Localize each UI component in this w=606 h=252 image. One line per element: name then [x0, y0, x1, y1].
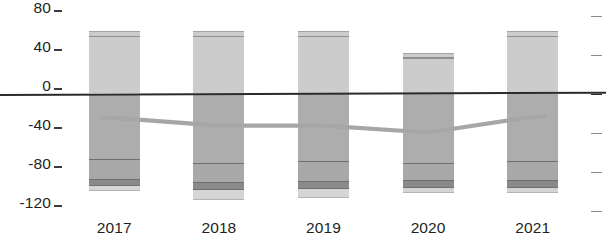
bar-segment-positive-outline — [507, 31, 558, 32]
bar-segment-negative-mid — [298, 162, 349, 182]
bar-segment-bottom-outline — [89, 190, 140, 191]
bar-segment-bottom-outline — [298, 197, 349, 198]
bar-segment-positive-outline — [193, 31, 244, 32]
x-axis-label-2019: 2019 — [284, 220, 364, 236]
y-axis-tick-dash — [54, 166, 62, 168]
bar-segment-positive — [403, 58, 454, 93]
y-axis-tick-label: -80 — [28, 156, 51, 172]
y-axis-tick-label: 80 — [34, 0, 51, 15]
bar-column — [403, 0, 454, 252]
bar-segment-positive-cap-line — [403, 57, 454, 59]
bar-segment-negative-upper — [507, 94, 558, 162]
right-axis-tick — [591, 16, 602, 18]
right-axis-tick — [591, 55, 602, 57]
bar-column — [89, 0, 140, 252]
bar-segment-negative-upper — [89, 94, 140, 160]
bar-stack — [298, 0, 349, 252]
bar-segment-negative-upper — [403, 94, 454, 164]
x-axis-label-2020: 2020 — [388, 220, 468, 236]
y-axis-tick-label: -40 — [28, 117, 51, 133]
bar-segment-negative-mid — [193, 164, 244, 184]
right-axis-tick — [591, 133, 602, 135]
bar-segment-positive-cap-line — [507, 36, 558, 38]
bar-segment-negative-upper — [193, 94, 244, 164]
right-axis-tick — [591, 172, 602, 174]
bar-segment-bottom-outline — [403, 192, 454, 193]
bar-column — [193, 0, 244, 252]
y-axis-tick-label: 0 — [42, 78, 51, 94]
bar-segment-positive-outline — [298, 31, 349, 32]
plot-area — [62, 0, 585, 252]
y-axis: 80400-40-80-120 — [0, 0, 62, 252]
y-axis-tick-dash — [54, 127, 62, 129]
bar-segment-positive-outline — [403, 53, 454, 54]
y-axis-tick-dash — [54, 88, 62, 90]
bar-stack — [403, 0, 454, 252]
bar-segment-positive — [298, 37, 349, 94]
y-axis-tick-dash — [54, 205, 62, 207]
bar-segment-negative-upper — [298, 94, 349, 162]
bar-segment-positive — [89, 37, 140, 94]
bar-segment-positive-cap-line — [193, 36, 244, 38]
x-axis-label-2021: 2021 — [493, 220, 573, 236]
x-axis-label-2018: 2018 — [179, 220, 259, 236]
y-axis-tick-dash — [54, 10, 62, 12]
bar-stack — [89, 0, 140, 252]
bar-segment-positive — [507, 37, 558, 94]
y-axis-tick-dash — [54, 49, 62, 51]
bar-segment-negative-mid — [507, 162, 558, 182]
right-axis-tick — [591, 94, 602, 96]
chart-container: 80400-40-80-120 20172018201920202021 — [0, 0, 606, 252]
right-axis-tick — [591, 211, 602, 213]
x-axis-label-2017: 2017 — [74, 220, 154, 236]
bar-column — [507, 0, 558, 252]
bar-segment-negative-mid — [403, 164, 454, 182]
bar-segment-positive-cap-line — [298, 36, 349, 38]
y-axis-tick-label: 40 — [34, 39, 51, 55]
bar-segment-positive — [193, 37, 244, 94]
bar-segment-bottom-outline — [193, 199, 244, 200]
bar-stack — [193, 0, 244, 252]
bar-segment-positive-cap-line — [89, 36, 140, 38]
bar-segment-positive-outline — [89, 31, 140, 32]
bar-stack — [507, 0, 558, 252]
bar-column — [298, 0, 349, 252]
y-axis-tick-label: -120 — [20, 195, 51, 211]
bar-segment-bottom-outline — [507, 192, 558, 193]
bar-segment-negative-mid — [89, 160, 140, 180]
